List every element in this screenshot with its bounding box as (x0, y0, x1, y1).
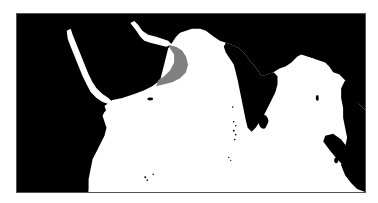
land-andaman-3 (331, 148, 334, 152)
land-andaman-2 (327, 140, 330, 143)
land-andaman-1 (316, 95, 319, 101)
land-socotra (147, 98, 153, 101)
land-andaman-4 (334, 157, 338, 163)
map-frame (16, 13, 366, 193)
map-canvas (17, 14, 365, 192)
